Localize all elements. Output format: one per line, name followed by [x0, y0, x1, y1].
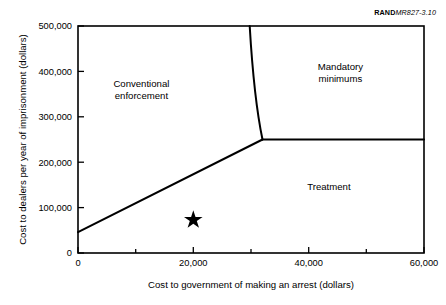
region-label-conventional-enforcement: Conventional enforcement: [113, 78, 169, 101]
y-tick-label: 100,000: [38, 203, 72, 213]
figure-container: RANDMR827-3.10 0 100,000 200,000 300,000…: [0, 0, 446, 305]
region-label-line2: enforcement: [115, 90, 169, 101]
region-label-mandatory-minimums: Mandatory minimums: [318, 61, 364, 84]
x-axis-tick-labels: 0 20,000 40,000 60,000: [75, 258, 438, 268]
y-axis-title: Cost to dealers per year of imprisonment…: [17, 34, 28, 245]
region-label-line2: minimums: [319, 73, 363, 84]
y-tick-label: 0: [67, 248, 72, 258]
y-axis-tick-labels: 0 100,000 200,000 300,000 400,000 500,00…: [38, 21, 72, 258]
y-tick-label: 400,000: [38, 67, 72, 77]
y-tick-label: 300,000: [38, 112, 72, 122]
x-tick-label: 60,000: [410, 258, 438, 268]
region-label-line1: Mandatory: [318, 61, 364, 72]
region-label-line1: Treatment: [307, 181, 351, 192]
y-tick-label: 500,000: [38, 21, 72, 31]
region-label-treatment: Treatment: [307, 181, 351, 192]
x-tick-label: 20,000: [179, 258, 207, 268]
x-axis-title: Cost to government of making an arrest (…: [148, 279, 354, 290]
region-label-line1: Conventional: [113, 78, 169, 89]
chart-svg: 0 100,000 200,000 300,000 400,000 500,00…: [0, 0, 446, 305]
x-tick-label: 40,000: [294, 258, 322, 268]
x-tick-label: 0: [75, 258, 80, 268]
y-tick-label: 200,000: [38, 158, 72, 168]
